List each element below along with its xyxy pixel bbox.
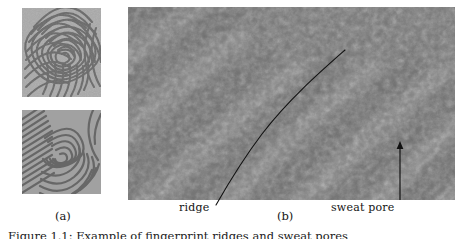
annotation-label-ridge: ridge <box>179 202 209 213</box>
fingerprint-magnified-graphic <box>128 7 455 200</box>
fingerprint-magnified-image <box>128 7 455 200</box>
panel-label-b: (b) <box>277 211 293 223</box>
figure-caption: Figure 1.1: Example of fingerprint ridge… <box>8 229 458 239</box>
fingerprint-image-whorl <box>22 8 101 97</box>
fingerprint-diagonal-graphic <box>22 110 101 194</box>
fingerprint-whorl-graphic <box>22 8 101 97</box>
fingerprint-image-diagonal <box>22 110 101 194</box>
panel-label-a: (a) <box>55 211 71 223</box>
annotation-label-sweat-pore: sweat pore <box>331 202 394 213</box>
figure-container: (a) (b) ridge sweat pore Figure 1.1: Exa… <box>0 0 464 239</box>
